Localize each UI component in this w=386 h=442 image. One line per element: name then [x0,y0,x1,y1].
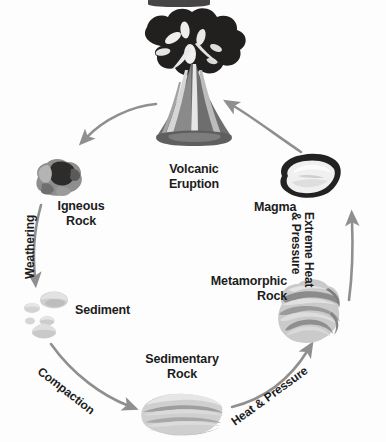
extreme-heat-line2: & Pressure [289,212,303,274]
stage-label-sediment: Sediment [75,303,167,318]
extreme-heat-line1: Extreme Heat [302,212,316,288]
sediment-icon [22,288,80,338]
metamorphic-rock-line2: Rock [257,289,287,303]
igneous-rock-line1: Igneous [58,199,105,213]
metamorphic-rock-line1: Metamorphic [211,274,287,288]
volcanic-eruption-line1: Volcanic [169,162,218,176]
stage-label-metamorphic-rock: MetamorphicRock [192,274,287,304]
sedimentary-rock-line2: Rock [167,367,197,381]
rock-cycle-diagram: VolcanicEruption IgneousRock Sediment Se… [0,0,386,442]
weathering-text: Weathering [23,215,37,279]
volcano-icon [123,8,265,158]
sedimentary-rock-line1: Sedimentary [145,352,218,366]
volcanic-eruption-line2: Eruption [169,177,219,191]
arrow-extreme-heat-and-pressure [349,220,353,300]
sediment-line1: Sediment [75,303,130,317]
stage-label-igneous-rock: IgneousRock [38,199,124,229]
stage-label-volcanic-eruption: VolcanicEruption [143,162,245,192]
transition-label-extreme-heat-and-pressure: Extreme Heat& Pressure [288,212,315,308]
igneous-rock-icon [30,157,86,201]
sedimentary-rock-icon [134,388,230,440]
transition-label-weathering: Weathering [24,207,38,287]
stage-label-sedimentary-rock: SedimentaryRock [125,352,239,382]
magma-icon [276,152,344,202]
igneous-rock-line2: Rock [66,214,96,228]
